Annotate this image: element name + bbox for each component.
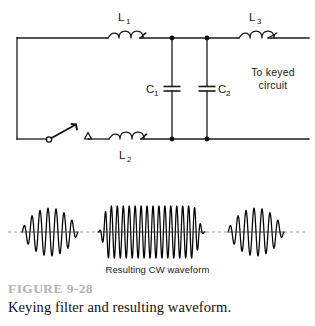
figure-9-28: L 1 L 3 L 2 C 1 C 2 To keyed circuit: [0, 0, 315, 326]
to-keyed-circuit-line2: circuit: [237, 79, 309, 92]
inductor-L1: [108, 31, 146, 38]
circuit-svg: L 1 L 3 L 2 C 1 C 2: [0, 0, 315, 190]
label-L1-letter: L: [118, 11, 125, 23]
label-L1-subscript: 1: [126, 17, 131, 26]
label-L3-letter: L: [249, 11, 256, 23]
switch-lever: [52, 125, 77, 139]
waveform-svg: [0, 196, 315, 268]
label-L3: L 3: [249, 11, 262, 26]
inductor-L3: [239, 31, 277, 38]
capacitor-C2: [199, 38, 216, 139]
circuit-schematic: L 1 L 3 L 2 C 1 C 2 To keyed circuit: [0, 0, 315, 190]
label-C1: C 1: [146, 83, 159, 98]
waveform-label: Resulting CW waveform: [0, 264, 315, 275]
node-dot-bottom-c1: [170, 137, 175, 142]
node-dot-top-c2: [205, 36, 210, 41]
figure-number: FIGURE 9-28: [8, 281, 93, 297]
label-C2-subscript: 2: [226, 89, 231, 98]
label-L2: L 2: [119, 149, 132, 164]
switch-contact-triangle: [85, 133, 92, 140]
label-L1: L 1: [118, 11, 131, 26]
cw-waveform-plot: [0, 196, 315, 268]
label-C1-subscript: 1: [154, 89, 159, 98]
label-L3-subscript: 3: [257, 17, 262, 26]
figure-caption: Keying filter and resulting waveform.: [8, 299, 231, 316]
label-L2-subscript: 2: [127, 155, 132, 164]
to-keyed-circuit-label: To keyed circuit: [237, 66, 309, 92]
keying-switch[interactable]: [46, 124, 91, 142]
label-C2: C 2: [218, 83, 231, 98]
node-dot-bottom-c2: [205, 137, 210, 142]
label-L2-letter: L: [119, 149, 126, 161]
to-keyed-circuit-line1: To keyed: [237, 66, 309, 79]
capacitor-C1: [164, 38, 181, 139]
node-dot-top-c1: [170, 36, 175, 41]
inductor-L2: [109, 132, 147, 139]
